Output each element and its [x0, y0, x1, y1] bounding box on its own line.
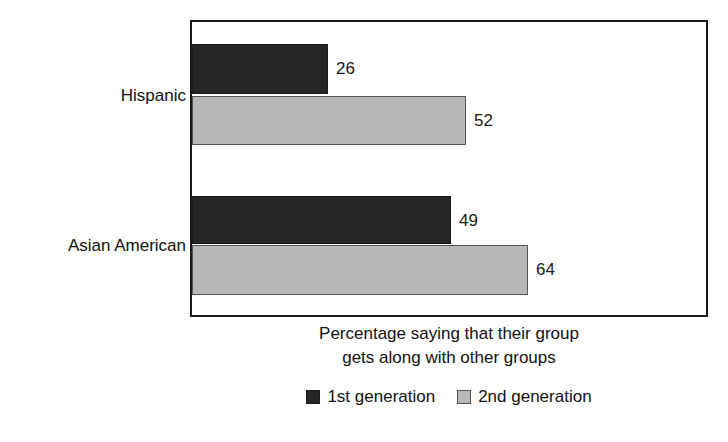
x-axis-title-line-2: gets along with other groups [190, 346, 708, 370]
legend-label-2nd-generation: 2nd generation [478, 388, 591, 405]
value-label-asian-american-2nd-generation: 64 [536, 261, 555, 278]
bar-hispanic-1st-generation [192, 44, 328, 94]
legend-swatch-icon-1st-generation [306, 390, 320, 404]
bar-hispanic-2nd-generation [192, 96, 466, 145]
value-label-hispanic-1st-generation: 26 [336, 60, 355, 77]
legend-swatch-icon-2nd-generation [457, 390, 471, 404]
bar-asian-american-2nd-generation [192, 245, 528, 295]
bar-asian-american-1st-generation [192, 196, 451, 244]
legend-label-1st-generation: 1st generation [327, 388, 435, 405]
category-label-hispanic: Hispanic [0, 86, 186, 105]
x-axis-title-line-1: Percentage saying that their group [190, 322, 708, 346]
plot-area: 26 52 49 64 [192, 22, 706, 315]
category-label-asian-american: Asian American [0, 236, 186, 255]
chart-legend: 1st generation 2nd generation [190, 388, 708, 405]
bar-chart-figure: Hispanic Asian American 26 52 49 64 Perc… [0, 0, 728, 442]
legend-item-2nd-generation: 2nd generation [457, 388, 591, 405]
x-axis-title: Percentage saying that their group gets … [190, 322, 708, 370]
legend-item-1st-generation: 1st generation [306, 388, 435, 405]
value-label-asian-american-1st-generation: 49 [459, 212, 478, 229]
value-label-hispanic-2nd-generation: 52 [474, 112, 493, 129]
